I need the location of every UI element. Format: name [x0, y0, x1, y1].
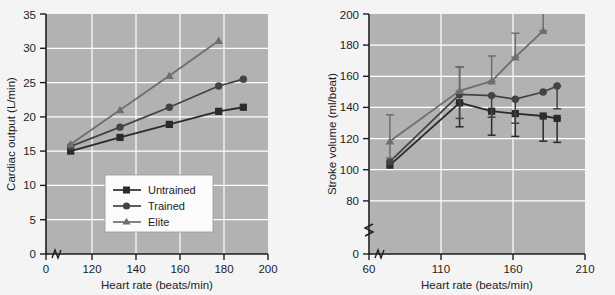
chart-cardiac-output: 0 5 10 15 20 25 30 35 0 120 140 160 180	[5, 9, 278, 291]
y-tick-label-left-3: 15	[23, 145, 36, 157]
circle-marker-icon	[166, 104, 173, 111]
circle-marker-icon	[116, 123, 123, 130]
y-tick-label-right-2: 100	[340, 164, 359, 176]
y-tick-label-left-4: 20	[23, 111, 36, 123]
circle-marker-icon	[512, 96, 519, 103]
x-tick-label-right-3: 210	[575, 263, 594, 275]
x-axis-title-right: Heart rate (beats/min)	[421, 279, 533, 291]
circle-marker-icon	[488, 92, 495, 99]
circle-marker-icon	[123, 202, 130, 209]
charts-svg: 0 5 10 15 20 25 30 35 0 120 140 160 180	[0, 0, 615, 295]
square-marker-icon	[116, 134, 123, 141]
square-marker-icon	[554, 115, 561, 122]
y-tick-label-right-5: 160	[340, 70, 359, 82]
circle-marker-icon	[386, 158, 393, 165]
square-marker-icon	[215, 108, 222, 115]
y-tick-label-right-3: 120	[340, 133, 359, 145]
square-marker-icon	[240, 104, 247, 111]
y-tick-label-left-0: 0	[30, 248, 36, 260]
y-tick-label-right-7: 200	[340, 9, 359, 21]
circle-marker-icon	[553, 82, 560, 89]
y-tick-label-right-1: 80	[346, 195, 359, 207]
y-tick-label-left-2: 10	[23, 179, 36, 191]
x-tick-label-left-2: 140	[126, 263, 145, 275]
y-axis-title-left: Cardiac output (L/min)	[5, 77, 17, 191]
y-tick-label-right-4: 140	[340, 101, 359, 113]
x-tick-label-left-0: 0	[43, 263, 49, 275]
square-marker-icon	[540, 112, 547, 119]
legend-label-trained: Trained	[148, 200, 185, 212]
y-tick-label-right-0: 0	[353, 248, 359, 260]
y-tick-label-left-5: 25	[23, 77, 36, 89]
x-tick-label-left-3: 160	[170, 263, 189, 275]
legend: Untrained Trained Elite	[105, 175, 213, 232]
circle-marker-icon	[240, 75, 247, 82]
x-tick-label-right-0: 60	[363, 263, 376, 275]
square-marker-icon	[123, 187, 130, 194]
legend-label-untrained: Untrained	[148, 184, 196, 196]
y-axis-title-right: Stroke volume (ml/beat)	[326, 73, 338, 195]
x-tick-label-left-1: 120	[82, 263, 101, 275]
y-tick-label-left-1: 5	[30, 214, 36, 226]
x-axis-title-left: Heart rate (beats/min)	[101, 279, 213, 291]
x-tick-label-left-4: 180	[214, 263, 233, 275]
circle-marker-icon	[539, 88, 546, 95]
y-tick-label-left-6: 30	[23, 42, 36, 54]
square-marker-icon	[166, 121, 173, 128]
plot-area-background-right	[369, 14, 585, 254]
y-tick-label-left-7: 35	[23, 9, 36, 21]
y-tick-label-right-6: 180	[340, 39, 359, 51]
circle-marker-icon	[215, 82, 222, 89]
x-tick-label-right-2: 160	[503, 263, 522, 275]
x-tick-label-right-1: 110	[432, 263, 450, 275]
legend-label-elite: Elite	[148, 216, 169, 228]
figure-container: 0 5 10 15 20 25 30 35 0 120 140 160 180	[0, 0, 615, 295]
x-tick-label-left-5: 200	[258, 263, 277, 275]
